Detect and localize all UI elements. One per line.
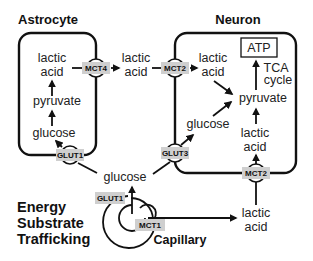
neuron-lactic-top-text: lactic (199, 51, 227, 65)
extra-glucose-text: glucose (103, 170, 146, 184)
title-line-1: Energy (17, 199, 66, 215)
cap-lactic-text: lactic (242, 206, 270, 220)
astrocyte-label: Astrocyte (18, 12, 78, 27)
glut1-astro-in-arrow (56, 141, 62, 147)
astro-glucose-text: glucose (32, 126, 75, 140)
energy-substrate-diagram: Astrocyte Neuron lactic acid pyruvate gl… (0, 0, 313, 261)
glut3-label: GLUT3 (162, 149, 189, 158)
cycle-text: cycle (264, 73, 293, 87)
glucose-to-glut3-line (153, 162, 170, 174)
capillary-label: Capillary (154, 233, 207, 247)
glucose-to-glut1-astro-line (78, 163, 97, 173)
mct4-label: MCT4 (85, 64, 107, 73)
neuron-pyruvate-text: pyruvate (239, 91, 287, 105)
neuron-lactic-bot-text: lactic (241, 126, 269, 140)
neuron-label: Neuron (215, 12, 261, 27)
glut1-astro-label: GLUT1 (57, 151, 84, 160)
extra-acid-text: acid (125, 65, 148, 79)
neuron-acid-top-text: acid (202, 65, 225, 79)
astro-acid-text: acid (41, 65, 64, 79)
mct2-bottom-label: MCT2 (245, 169, 267, 178)
glut1-cap-label: GLUT1 (97, 194, 124, 203)
neuron-lactic-to-pyruvate-arrow (214, 81, 232, 94)
neuron-glucose-text: glucose (186, 117, 229, 131)
neuron-acid-bot-text: acid (244, 140, 267, 154)
extra-lactic-text: lactic (122, 51, 150, 65)
glut3-in-arrow (181, 135, 193, 145)
atp-text: ATP (247, 41, 270, 55)
astro-lactic-text: lactic (38, 51, 66, 65)
capillary-endothelium (131, 198, 153, 220)
title-line-3: Trafficking (17, 231, 90, 247)
astro-pyruvate-text: pyruvate (33, 94, 81, 108)
mct2-top-label: MCT2 (164, 64, 186, 73)
title-line-2: Substrate (17, 215, 84, 231)
cap-acid-text: acid (245, 220, 268, 234)
mct1-label: MCT1 (139, 221, 161, 230)
neuron-glucose-to-pyruvate-arrow (213, 102, 231, 116)
